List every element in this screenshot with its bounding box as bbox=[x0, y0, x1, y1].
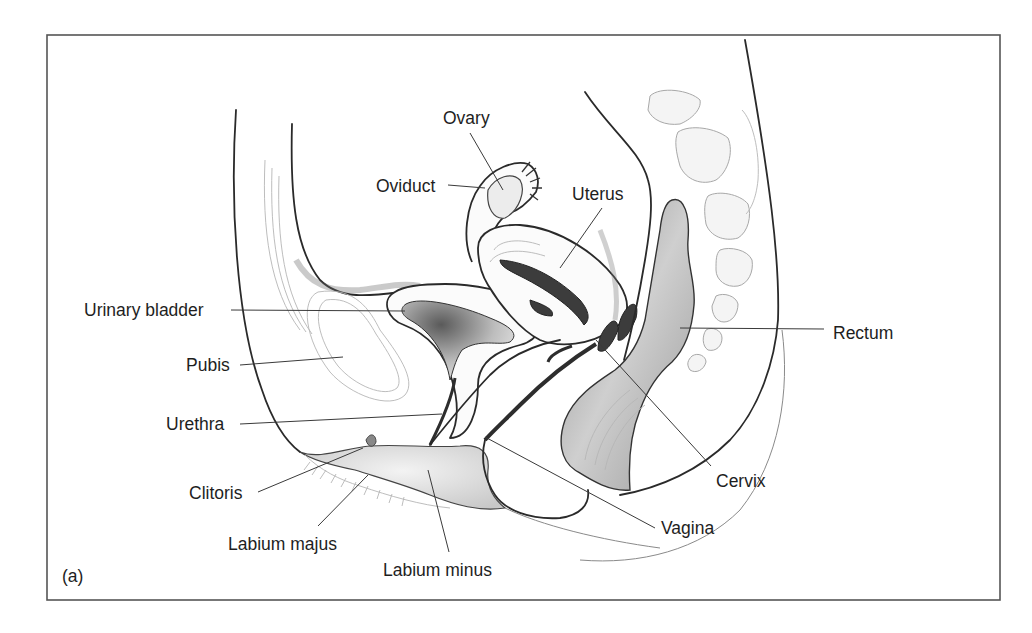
anatomy-figure: Ovary Oviduct Uterus Urinary bladder Rec… bbox=[0, 0, 1032, 633]
label-labium-minus: Labium minus bbox=[383, 560, 492, 580]
label-urinary-bladder: Urinary bladder bbox=[84, 300, 204, 320]
leader-pubis bbox=[240, 357, 343, 365]
label-urethra: Urethra bbox=[166, 414, 225, 434]
leader-urinary-bladder bbox=[231, 310, 405, 311]
label-oviduct: Oviduct bbox=[376, 176, 435, 196]
label-ovary: Ovary bbox=[443, 108, 490, 128]
leader-rectum bbox=[680, 328, 824, 329]
panel-label: (a) bbox=[62, 566, 83, 586]
label-rectum: Rectum bbox=[833, 323, 893, 343]
leader-urethra bbox=[240, 414, 442, 424]
label-pubis: Pubis bbox=[186, 355, 230, 375]
label-cervix: Cervix bbox=[716, 471, 766, 491]
label-labium-majus: Labium majus bbox=[228, 534, 337, 554]
label-uterus: Uterus bbox=[572, 184, 624, 204]
label-vagina: Vagina bbox=[661, 518, 714, 538]
anatomy-illustration bbox=[234, 40, 785, 561]
label-clitoris: Clitoris bbox=[189, 483, 243, 503]
